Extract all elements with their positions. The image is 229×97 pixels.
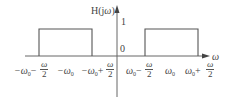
fraction-w-over-2: ω2 xyxy=(206,60,214,79)
left-passband-rect xyxy=(39,29,92,56)
tick-main: −ω xyxy=(14,65,28,76)
x-axis-arrow-icon xyxy=(202,54,210,59)
tick-op: + xyxy=(98,65,104,76)
y-axis-arrow-icon xyxy=(115,5,120,13)
tick-main: ω xyxy=(165,65,172,76)
tick-op: − xyxy=(136,65,142,76)
y-label-suffix: ) xyxy=(111,5,114,16)
fraction-den: 2 xyxy=(40,70,48,79)
tick-main: −ω xyxy=(81,65,95,76)
tick-label-w0-minus-half: ω0− xyxy=(126,66,142,77)
tick-op: − xyxy=(31,65,37,76)
fraction-w-over-2: ω2 xyxy=(145,60,153,79)
tick-sub: 0 xyxy=(71,71,74,77)
tick-op: + xyxy=(195,65,201,76)
tick-sub: 0 xyxy=(172,71,175,77)
tick-label-w0-plus-half: ω0+ xyxy=(185,66,201,77)
fraction-w-over-2: ω2 xyxy=(40,60,48,79)
tick-main: ω xyxy=(126,65,133,76)
tick-label-neg-w0-plus-half: −ω0+ xyxy=(81,66,103,77)
y-axis-label: H(jω) xyxy=(91,6,115,16)
fraction-den: 2 xyxy=(145,70,153,79)
origin-label: 0 xyxy=(120,44,125,54)
tick-label-w0: ω0 xyxy=(165,66,175,77)
y-label-prefix: H(j xyxy=(91,5,104,16)
right-passband-rect xyxy=(145,29,198,56)
tick-label-neg-w0-minus-half: −ω0− xyxy=(14,66,36,77)
tick-main: ω xyxy=(185,65,192,76)
fraction-den: 2 xyxy=(106,70,114,79)
tick-main: −ω xyxy=(57,65,71,76)
fraction-w-over-2: ω2 xyxy=(106,60,114,79)
tick-label-neg-w0: −ω0 xyxy=(57,66,74,77)
fraction-den: 2 xyxy=(206,70,214,79)
level-one-label: 1 xyxy=(121,17,126,27)
